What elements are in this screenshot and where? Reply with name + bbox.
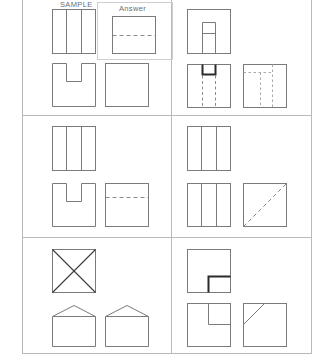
- problem1-side-view: [243, 64, 287, 108]
- sample-answer-figure: [112, 16, 156, 54]
- problem4-top-view: [52, 249, 96, 293]
- problem1-front-view: [187, 64, 231, 108]
- problem5-side-view: [243, 303, 287, 347]
- sample-front-view: [52, 63, 96, 107]
- problem3-side-view: [243, 183, 287, 227]
- problem3-front-view: [187, 183, 231, 227]
- problem2-top-view: [52, 126, 96, 171]
- problem5-top-view: [187, 249, 231, 293]
- problem2-front-view: [52, 183, 96, 227]
- cell-problem-1: [171, 0, 311, 115]
- grid-right-border: [311, 0, 312, 354]
- cell-problem-4: [22, 237, 171, 354]
- sample-label: SAMPLE: [60, 0, 93, 9]
- cell-problem-3: [171, 115, 311, 237]
- answer-label: Answer: [119, 4, 146, 13]
- problem5-front-view: [187, 303, 231, 347]
- problem3-top-view: [187, 126, 231, 171]
- cell-problem-2: [22, 115, 171, 237]
- cell-sample: SAMPLE Answer: [22, 0, 171, 115]
- sample-side-view: [105, 63, 149, 107]
- worksheet-page: SAMPLE Answer: [0, 0, 322, 360]
- cell-problem-5: [171, 237, 311, 354]
- problem4-front-view: [52, 305, 96, 347]
- sample-top-view: [52, 9, 96, 54]
- problem1-top-view: [187, 9, 231, 54]
- problem4-side-view: [105, 305, 149, 347]
- problem2-side-view: [105, 183, 149, 227]
